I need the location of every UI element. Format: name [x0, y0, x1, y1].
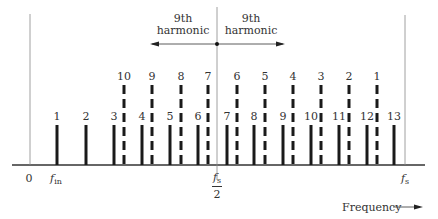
- harmonic-label: 8: [251, 111, 258, 122]
- harmonic-label: 6: [195, 111, 202, 122]
- tick-zero: 0: [26, 173, 33, 184]
- harmonic-label: 11: [332, 111, 346, 122]
- folded-harmonic-label: 6: [234, 71, 241, 82]
- folded-harmonic-label: 2: [346, 71, 353, 82]
- tick-half-fs-denominator: 2: [214, 189, 221, 200]
- harmonic-label: 10: [304, 111, 318, 122]
- fold-point-dot: [215, 42, 219, 46]
- frequency-arrowhead-icon: [414, 205, 423, 210]
- left-harmonic-label: 9th harmonic: [157, 13, 210, 37]
- spectrum-diagram: 1234567891011121310987654321 9th harmoni…: [0, 0, 438, 219]
- harmonic-label: 3: [111, 111, 118, 122]
- tick-fs-sub: s: [405, 177, 409, 186]
- tick-half-fs-numerator: fs: [213, 172, 221, 184]
- folded-harmonic-label: 5: [262, 71, 269, 82]
- tick-fs: fs: [401, 173, 409, 185]
- harmonic-label: 4: [139, 111, 146, 122]
- folded-harmonic-label: 10: [117, 71, 131, 82]
- harmonic-label: 1: [54, 111, 61, 122]
- harmonic-label: 2: [83, 111, 90, 122]
- tick-fin: fin: [50, 173, 62, 185]
- folded-harmonic-label: 3: [318, 71, 325, 82]
- left-arrowhead-icon: [150, 42, 159, 47]
- harmonic-label: 7: [224, 111, 231, 122]
- folded-harmonic-label: 8: [178, 71, 185, 82]
- harmonic-label: 5: [167, 111, 174, 122]
- folded-harmonic-label: 1: [374, 71, 381, 82]
- x-axis-label: Frequency: [342, 201, 402, 214]
- folded-harmonic-label: 4: [290, 71, 297, 82]
- right-label-line2: harmonic: [225, 25, 278, 37]
- harmonic-label: 9: [280, 111, 287, 122]
- tick-fin-sub: in: [54, 177, 62, 186]
- folded-harmonic-label: 7: [205, 71, 212, 82]
- left-label-line2: harmonic: [157, 25, 210, 37]
- right-harmonic-label: 9th harmonic: [225, 13, 278, 37]
- folded-harmonic-label: 9: [149, 71, 156, 82]
- tick-half-fs-sub: s: [217, 176, 221, 185]
- harmonic-label: 12: [360, 111, 374, 122]
- right-arrowhead-icon: [276, 42, 285, 47]
- harmonic-label: 13: [387, 111, 401, 122]
- fraction-bar: [212, 186, 222, 187]
